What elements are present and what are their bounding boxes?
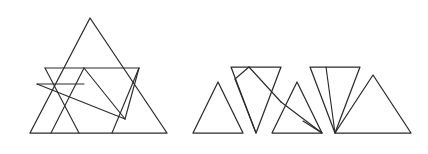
triangle-dissection-diagram xyxy=(0,0,428,154)
figure-root: Triangle dissection figure A large equil… xyxy=(0,0,428,154)
canvas-background xyxy=(0,0,428,154)
